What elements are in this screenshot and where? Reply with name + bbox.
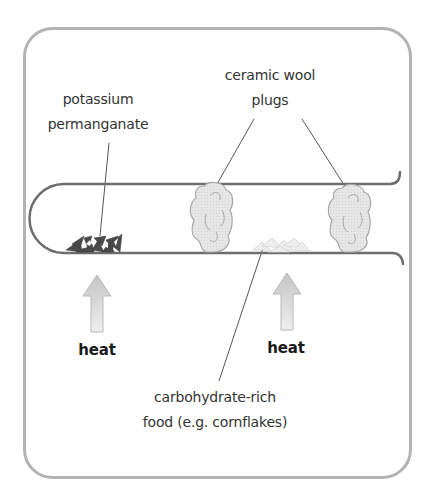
heat-label-right: heat (256, 336, 316, 361)
ceramic-wool-plug-left (190, 183, 232, 252)
plugs-label-line2: plugs (210, 88, 330, 113)
potassium-label-line1: potassium (33, 87, 163, 112)
carbohydrate-food-label: carbohydrate-rich food (e.g. cornflakes) (120, 385, 310, 435)
ceramic-wool-plug-right (328, 185, 370, 252)
heat-label-left: heat (67, 338, 127, 363)
heat-arrow-left-icon (83, 275, 111, 332)
heat-arrow-right-icon (273, 273, 301, 330)
pointer-lines (100, 119, 360, 381)
food-label-line1: carbohydrate-rich (120, 385, 310, 410)
potassium-label-line2: permanganate (33, 112, 163, 137)
food-label-line2: food (e.g. cornflakes) (120, 410, 310, 435)
plugs-label-line1: ceramic wool (210, 63, 330, 88)
potassium-permanganate-label: potassium permanganate (33, 87, 163, 137)
potassium-pointer-line (100, 143, 109, 236)
cornflakes (253, 238, 310, 252)
ceramic-wool-plugs-label: ceramic wool plugs (210, 63, 330, 113)
potassium-permanganate-crystals (66, 234, 122, 252)
